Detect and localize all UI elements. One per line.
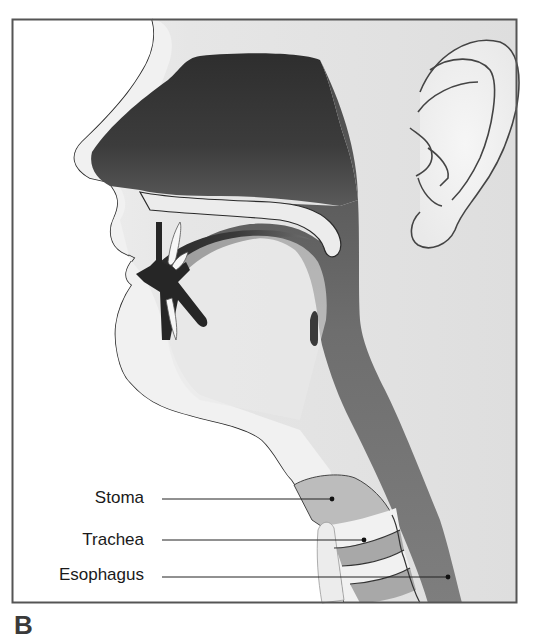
panel-letter: B [14,610,33,641]
label-trachea: Trachea [0,530,144,550]
epiglottis [310,311,318,346]
label-esophagus: Esophagus [0,565,144,585]
label-stoma: Stoma [0,488,144,508]
